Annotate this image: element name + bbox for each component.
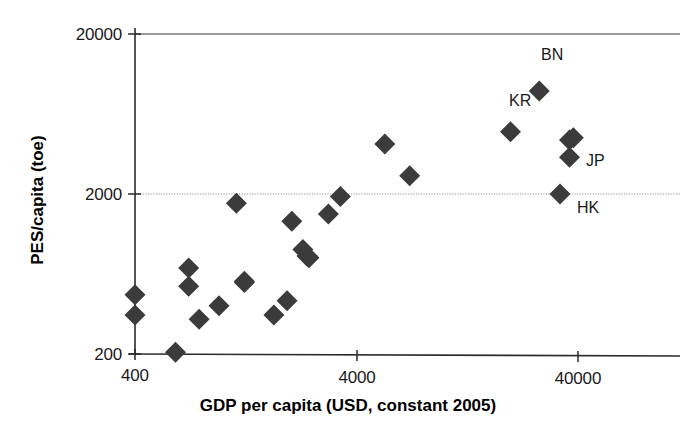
- data-point-kr: [500, 121, 521, 142]
- point-label-hk: HK: [577, 199, 599, 217]
- point-label-bn: BN: [541, 46, 563, 64]
- x-axis-line: [129, 354, 680, 356]
- data-markers: [125, 81, 584, 363]
- data-point: [330, 186, 351, 207]
- y-tick-label-20000: 20000: [18, 25, 122, 45]
- y-axis-title: PES/capita (toe): [28, 70, 48, 330]
- x-tick-label-40000: 40000: [528, 369, 628, 389]
- data-point: [263, 305, 284, 326]
- data-point: [125, 305, 146, 326]
- data-point-bn: [529, 81, 550, 102]
- data-point: [374, 134, 395, 155]
- data-point: [399, 165, 420, 186]
- data-point: [165, 342, 186, 363]
- x-axis-title: GDP per capita (USD, constant 2005): [0, 396, 696, 416]
- point-label-kr: KR: [509, 92, 531, 110]
- data-point: [178, 257, 199, 278]
- data-point: [226, 193, 247, 214]
- x-tick-label-4000: 4000: [307, 368, 407, 388]
- point-label-jp: JP: [586, 152, 605, 170]
- data-point: [318, 203, 339, 224]
- data-point: [281, 211, 302, 232]
- data-point: [559, 147, 580, 168]
- data-point-hk: [549, 184, 570, 205]
- data-point: [234, 272, 255, 293]
- data-point: [178, 276, 199, 297]
- x-tick-label-400: 400: [85, 366, 185, 386]
- data-point: [189, 309, 210, 330]
- data-point: [277, 290, 298, 311]
- data-point: [209, 295, 230, 316]
- data-point: [125, 284, 146, 305]
- y-tick-label-200: 200: [18, 345, 122, 365]
- scatter-chart-figure: 20000 2000 200 400 4000 40000 GDP per ca…: [0, 0, 696, 426]
